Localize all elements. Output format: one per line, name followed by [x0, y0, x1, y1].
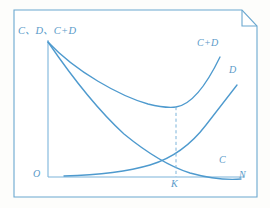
y-axis-label: C、D、C+D	[18, 26, 76, 37]
figure-page: C、D、C+D C+D D C O N K	[0, 0, 270, 208]
curve-label-c: C	[219, 155, 226, 165]
curve-label-total-cd: C+D	[197, 38, 219, 48]
origin-label: O	[33, 169, 41, 179]
optimum-point-label: K	[171, 179, 178, 189]
curve-label-d: D	[229, 65, 237, 75]
x-axis-end-label: N	[239, 170, 246, 180]
